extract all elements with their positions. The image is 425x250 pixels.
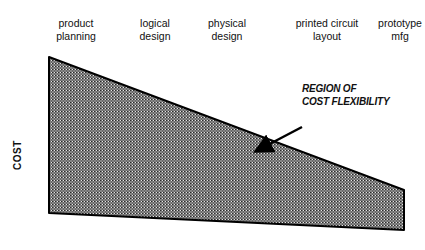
stage-label-line2: layout [296, 30, 358, 43]
stage-label-line2: design [140, 30, 171, 43]
stage-label-printed-circuit-layout: printed circuit layout [296, 17, 358, 43]
stage-label-logical-design: logical design [140, 17, 171, 43]
stage-label-line2: design [208, 30, 246, 43]
y-axis-label: COST [12, 140, 23, 170]
stage-label-product-planning: product planning [56, 17, 96, 43]
stage-label-line1: product [56, 17, 96, 30]
callout-line1: REGION OF [302, 82, 389, 95]
callout-line2: COST FLEXIBILITY [302, 95, 389, 108]
cost-flexibility-callout: REGION OF COST FLEXIBILITY [302, 82, 389, 108]
stage-label-line2: mfg [378, 30, 422, 43]
stage-label-prototype-mfg: prototype mfg [378, 17, 422, 43]
stage-label-physical-design: physical design [208, 17, 246, 43]
stage-label-line2: planning [56, 30, 96, 43]
stage-label-line1: logical [140, 17, 171, 30]
stage-label-line1: printed circuit [296, 17, 358, 30]
stage-label-line1: prototype [378, 17, 422, 30]
stage-label-line1: physical [208, 17, 246, 30]
